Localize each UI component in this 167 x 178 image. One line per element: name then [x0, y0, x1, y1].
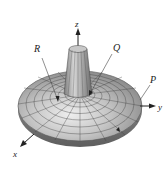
- z-axis-label: z: [74, 19, 79, 29]
- y-axis: y: [140, 102, 162, 112]
- central-peak: [64, 46, 92, 99]
- point-p-callout: P: [140, 74, 156, 100]
- y-axis-label: y: [157, 102, 162, 112]
- point-r-label: R: [33, 43, 40, 54]
- point-p-label: P: [149, 74, 156, 85]
- x-axis: x: [12, 134, 34, 159]
- x-axis-label: x: [12, 149, 17, 159]
- point-q-label: Q: [113, 42, 121, 53]
- surface-diagram: y x z R Q P: [0, 0, 167, 178]
- z-axis: [76, 28, 81, 46]
